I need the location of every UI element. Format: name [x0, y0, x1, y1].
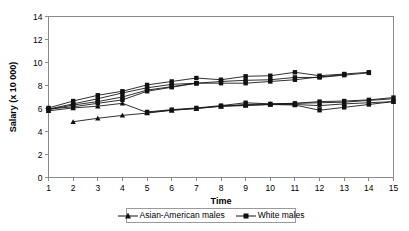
data-point-marker	[367, 102, 371, 106]
data-point-marker	[293, 78, 297, 82]
chart-series	[46, 70, 396, 124]
data-point-marker	[293, 70, 297, 74]
legend-label-asian-american-males: Asian-American males	[140, 211, 225, 220]
chart-plot-area: 02468101214123456789101112131415 TimeSal…	[0, 0, 409, 231]
data-point-marker	[243, 74, 247, 78]
chart-legend: Asian-American males White males	[126, 208, 296, 223]
data-point-marker	[170, 85, 174, 89]
x-tick-label: 7	[194, 183, 199, 193]
y-tick-label: 10	[33, 58, 43, 68]
triangle-marker-icon	[118, 211, 138, 221]
x-tick-label: 14	[364, 183, 374, 193]
data-point-marker	[317, 75, 321, 79]
data-point-marker	[243, 81, 247, 85]
data-point-marker	[194, 76, 198, 80]
data-point-marker	[391, 99, 395, 103]
data-point-marker	[170, 107, 174, 111]
data-point-marker	[219, 81, 223, 85]
data-point-marker	[317, 99, 321, 103]
data-point-marker	[120, 91, 124, 95]
legend-label-white-males: White males	[258, 211, 305, 220]
data-point-marker	[342, 105, 346, 109]
data-point-marker	[317, 108, 321, 112]
x-axis-title: Time	[211, 196, 232, 206]
chart-axes	[49, 17, 394, 178]
x-tick-label: 8	[219, 183, 224, 193]
data-point-marker	[268, 74, 272, 78]
y-tick-label: 12	[33, 35, 43, 45]
x-tick-label: 9	[243, 183, 248, 193]
x-tick-label: 1	[46, 183, 51, 193]
data-point-marker	[342, 72, 346, 76]
data-point-marker	[391, 95, 395, 99]
data-point-marker	[219, 104, 223, 108]
y-tick-label: 4	[38, 127, 43, 137]
data-point-marker	[293, 103, 297, 107]
x-tick-label: 12	[315, 183, 325, 193]
y-tick-label: 0	[38, 173, 43, 183]
y-tick-label: 8	[38, 81, 43, 91]
x-tick-label: 5	[145, 183, 150, 193]
square-marker-icon	[236, 211, 256, 221]
data-point-marker	[268, 79, 272, 83]
data-point-marker	[342, 99, 346, 103]
series-asian-american-males	[70, 99, 396, 124]
x-tick-label: 3	[95, 183, 100, 193]
data-point-marker	[367, 98, 371, 102]
data-point-marker	[194, 106, 198, 110]
y-tick-label: 14	[33, 12, 43, 22]
x-tick-label: 15	[389, 183, 399, 193]
data-point-marker	[194, 81, 198, 85]
data-point-marker	[367, 71, 371, 75]
y-axis-title: Salary (x 10 000)	[8, 62, 18, 133]
data-point-marker	[145, 89, 149, 93]
data-point-marker	[268, 102, 272, 106]
x-tick-label: 2	[71, 183, 76, 193]
y-tick-label: 6	[38, 104, 43, 114]
x-tick-label: 4	[120, 183, 125, 193]
data-point-marker	[243, 103, 247, 107]
legend-item-asian-american-males: Asian-American males	[118, 211, 225, 221]
x-tick-label: 11	[291, 183, 300, 193]
x-tick-label: 6	[169, 183, 174, 193]
x-tick-label: 13	[339, 183, 349, 193]
legend-item-white-males: White males	[236, 211, 305, 221]
y-tick-label: 2	[38, 150, 43, 160]
data-point-marker	[145, 110, 149, 114]
x-tick-label: 10	[266, 183, 276, 193]
chart-figure: 02468101214123456789101112131415 TimeSal…	[0, 0, 409, 231]
